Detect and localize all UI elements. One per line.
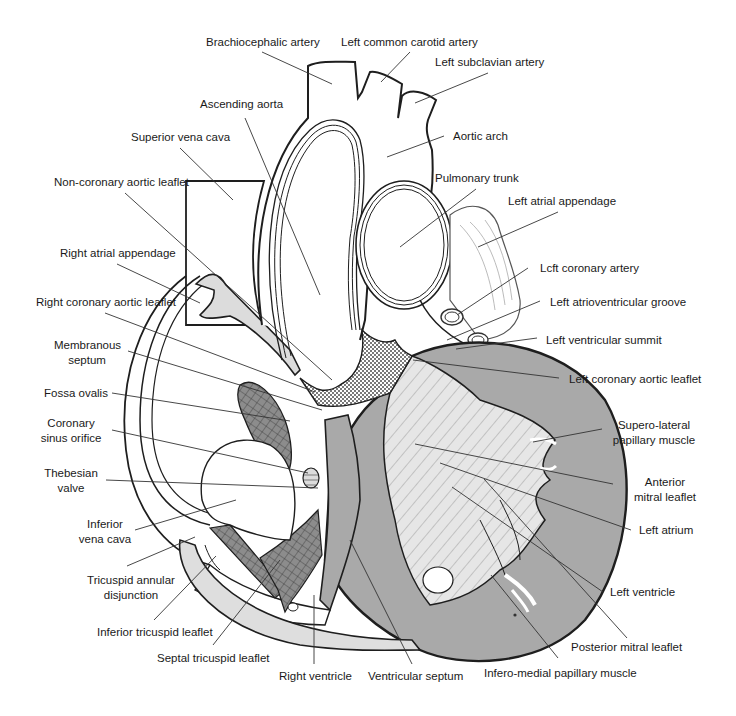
label-text: Fossa ovalis (44, 386, 108, 401)
label-supero-lateral-papillary-muscle: Supero-lateralpapillary muscle (612, 418, 696, 448)
label-text: Coronary (36, 416, 106, 431)
label-pulmonary-trunk: Pulmonary trunk (435, 171, 519, 186)
label-text: Left common carotid artery (341, 35, 478, 50)
label-text: Posterior mitral leaflet (571, 640, 682, 655)
label-brachiocephalic-artery: Brachiocephalic artery (206, 35, 320, 50)
inferior-vena-cava-shape (201, 440, 295, 540)
label-text: disjunction (83, 588, 179, 603)
heart-anatomy-diagram: Brachiocephalic arteryLeft common caroti… (0, 0, 736, 716)
label-text: Thebesian (42, 466, 100, 481)
label-thebesian-valve: Thebesianvalve (42, 466, 100, 496)
label-text: Anterior (627, 475, 703, 490)
label-text: valve (42, 481, 100, 496)
label-text: Left coronary aortic leaflet (569, 372, 701, 387)
label-text: Septal tricuspid leaflet (157, 651, 270, 666)
label-left-coronary-artery: Lcft coronary artery (540, 261, 639, 276)
label-text: Inferior tricuspid leaflet (97, 625, 213, 640)
leader-line-left-common-carotid-artery (381, 52, 410, 82)
label-text: Right atrial appendage (60, 246, 176, 261)
label-text: Infero-medial papillary muscle (484, 666, 637, 681)
label-infero-medial-papillary-muscle: Infero-medial papillary muscle (484, 666, 637, 681)
label-text: Left ventricular summit (546, 333, 662, 348)
label-text: Lcft coronary artery (540, 261, 639, 276)
label-left-atrium: Left atrium (639, 523, 693, 538)
label-text: Left atrioventricular groove (550, 295, 686, 310)
label-text: Tricuspid annular (83, 573, 179, 588)
label-text: Left ventricle (610, 585, 675, 600)
label-left-ventricle: Left ventricle (610, 585, 675, 600)
label-left-coronary-aortic-leaflet: Left coronary aortic leaflet (569, 372, 701, 387)
label-text: Inferior (77, 517, 133, 532)
label-left-common-carotid-artery: Left common carotid artery (341, 35, 478, 50)
label-left-ventricular-summit: Left ventricular summit (546, 333, 662, 348)
label-text: Membranous (54, 338, 120, 353)
leader-line-left-subclavian-artery (415, 73, 488, 103)
label-right-atrial-appendage: Right atrial appendage (60, 246, 176, 261)
label-inferior-vena-cava: Inferiorvena cava (77, 517, 133, 547)
label-septal-tricuspid-leaflet: Septal tricuspid leaflet (157, 651, 270, 666)
label-text: Left subclavian artery (435, 55, 544, 70)
pulmonary-trunk-shape (356, 181, 452, 309)
label-text: Pulmonary trunk (435, 171, 519, 186)
label-aortic-arch: Aortic arch (453, 129, 508, 144)
coronary-sinus-shape (303, 468, 319, 488)
label-ventricular-septum: Ventricular septum (368, 669, 463, 684)
label-text: Right ventricle (279, 669, 352, 684)
label-membranous-septum: Membranousseptum (54, 338, 120, 368)
label-text: Ventricular septum (368, 669, 463, 684)
label-superior-vena-cava: Superior vena cava (131, 130, 230, 145)
label-non-coronary-aortic-leaflet: Non-coronary aortic leaflet (54, 175, 189, 190)
label-text: Left atrium (639, 523, 693, 538)
label-fossa-ovalis: Fossa ovalis (44, 386, 108, 401)
label-text: Non-coronary aortic leaflet (54, 175, 189, 190)
label-text: Ascending aorta (200, 97, 283, 112)
label-left-atrial-appendage: Left atrial appendage (508, 194, 616, 209)
label-right-coronary-aortic-leaflet: Right coronary aortic leaflet (36, 295, 176, 310)
label-text: Supero-lateral (612, 418, 696, 433)
label-posterior-mitral-leaflet: Posterior mitral leaflet (571, 640, 682, 655)
label-inferior-tricuspid-leaflet: Inferior tricuspid leaflet (97, 625, 213, 640)
label-left-subclavian-artery: Left subclavian artery (435, 55, 544, 70)
label-text: sinus orifice (36, 431, 106, 446)
label-text: mitral leaflet (627, 490, 703, 505)
label-text: Right coronary aortic leaflet (36, 295, 176, 310)
label-tricuspid-annular-disjunction: Tricuspid annulardisjunction (83, 573, 179, 603)
label-ascending-aorta: Ascending aorta (200, 97, 283, 112)
label-text: Brachiocephalic artery (206, 35, 320, 50)
label-text: papillary muscle (612, 433, 696, 448)
label-anterior-mitral-leaflet: Anteriormitral leaflet (627, 475, 703, 505)
label-text: Superior vena cava (131, 130, 230, 145)
label-text: vena cava (77, 532, 133, 547)
label-text: Left atrial appendage (508, 194, 616, 209)
label-text: Aortic arch (453, 129, 508, 144)
label-right-ventricle: Right ventricle (279, 669, 352, 684)
label-coronary-sinus-orifice: Coronarysinus orifice (36, 416, 106, 446)
label-text: septum (54, 353, 120, 368)
label-left-atrioventricular-groove: Left atrioventricular groove (550, 295, 686, 310)
